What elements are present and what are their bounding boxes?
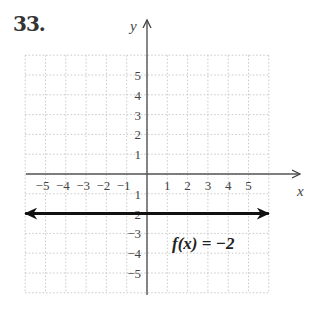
y-tick-label: 1 (135, 147, 142, 162)
x-tick-label: 2 (184, 178, 191, 193)
coordinate-plane: x y −5−4−3−2−112345 5432112−3−4−5 f(x) =… (0, 0, 319, 309)
y-axis-label: y (128, 18, 137, 34)
y-tick-label: 5 (135, 68, 142, 83)
y-tick-label: 2 (135, 127, 142, 142)
x-tick-label: −4 (56, 178, 70, 193)
y-tick-label: 1 (135, 187, 142, 202)
x-tick-label: 3 (205, 178, 212, 193)
x-tick-label: −5 (36, 178, 50, 193)
y-tick-label: 4 (135, 88, 142, 103)
y-tick-label: −5 (127, 266, 141, 281)
x-axis-label: x (296, 183, 304, 199)
y-tick-label: −4 (127, 246, 141, 261)
y-tick-label: −3 (127, 226, 141, 241)
x-tick-label: 4 (225, 178, 232, 193)
x-tick-labels: −5−4−3−2−112345 (36, 178, 252, 193)
x-tick-label: 5 (245, 178, 252, 193)
x-tick-label: −3 (76, 178, 90, 193)
x-tick-label: −2 (96, 178, 110, 193)
x-tick-label: −1 (117, 178, 131, 193)
x-tick-label: 1 (164, 178, 171, 193)
function-label: f(x) = −2 (172, 234, 235, 253)
y-tick-label: 3 (135, 108, 142, 123)
